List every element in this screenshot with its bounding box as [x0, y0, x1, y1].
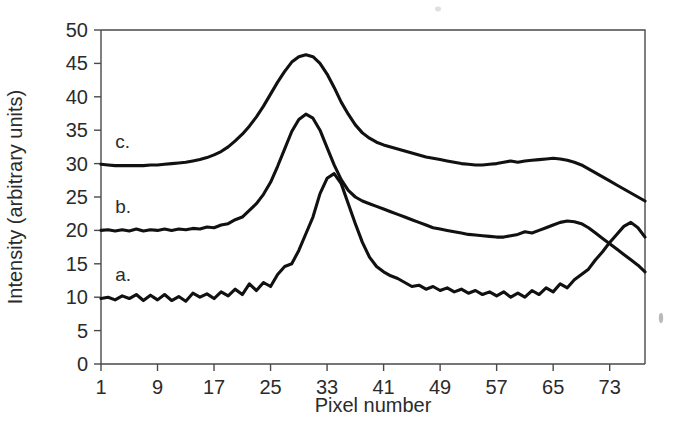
x-tick-label: 25: [259, 376, 281, 398]
x-tick-label: 17: [203, 376, 225, 398]
y-axis-title: Intensity (arbitrary units): [4, 90, 26, 305]
chart-background: [0, 0, 682, 432]
curve-label-b: b.: [115, 196, 131, 217]
curve-label-c: c.: [115, 131, 130, 152]
y-tick-label: 30: [66, 153, 88, 175]
x-tick-label: 1: [95, 376, 106, 398]
y-tick-label: 20: [66, 219, 88, 241]
y-tick-label: 10: [66, 286, 88, 308]
x-tick-label: 49: [429, 376, 451, 398]
chart-figure: 05101520253035404550 191725334149576573 …: [0, 0, 682, 432]
curve-label-a: a.: [115, 264, 131, 285]
x-tick-label: 73: [599, 376, 621, 398]
y-tick-label: 15: [66, 253, 88, 275]
x-axis-title: Pixel number: [315, 394, 432, 416]
y-tick-label: 50: [66, 19, 88, 41]
y-tick-label: 25: [66, 186, 88, 208]
y-tick-label: 35: [66, 119, 88, 141]
y-tick-label: 0: [77, 353, 88, 375]
x-tick-label: 9: [152, 376, 163, 398]
y-tick-label: 40: [66, 86, 88, 108]
y-tick-label: 45: [66, 52, 88, 74]
chart-svg: 05101520253035404550 191725334149576573 …: [0, 0, 682, 432]
x-tick-label: 65: [542, 376, 564, 398]
x-tick-label: 57: [486, 376, 508, 398]
scan-artifact-speck: [659, 313, 663, 323]
y-tick-label: 5: [77, 320, 88, 342]
scan-artifact-speck-top: [435, 7, 441, 12]
